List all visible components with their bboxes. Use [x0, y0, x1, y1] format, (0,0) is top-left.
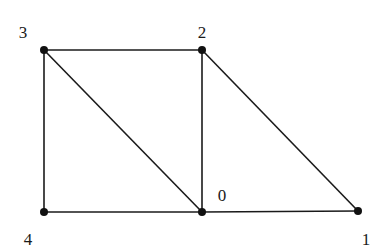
edge-0-1	[202, 211, 358, 212]
node-0	[198, 208, 206, 216]
node-label-2: 2	[198, 23, 207, 42]
edges-group	[44, 50, 358, 212]
node-label-1: 1	[362, 230, 371, 249]
graph-diagram: 01234	[0, 0, 384, 252]
node-label-3: 3	[19, 23, 28, 42]
node-label-4: 4	[24, 230, 33, 249]
node-1	[354, 207, 362, 215]
labels-group: 01234	[19, 23, 371, 249]
node-2	[198, 46, 206, 54]
nodes-group	[40, 46, 362, 216]
node-3	[40, 46, 48, 54]
graph-svg: 01234	[0, 0, 384, 252]
node-4	[40, 208, 48, 216]
node-label-0: 0	[218, 186, 227, 205]
edge-3-0	[44, 50, 202, 212]
